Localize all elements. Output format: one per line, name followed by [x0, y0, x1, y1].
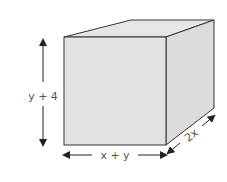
width-dimension: x + y	[64, 149, 166, 162]
box-diagram: y + 4 x + y 2x	[0, 0, 227, 182]
depth-arrow-upper	[202, 116, 214, 126]
height-label: y + 4	[28, 90, 58, 103]
width-label: x + y	[100, 149, 130, 162]
box-side-face	[166, 20, 214, 145]
height-dimension: y + 4	[28, 40, 58, 145]
depth-arrow-lower	[168, 143, 180, 153]
box-front-face	[64, 37, 166, 145]
